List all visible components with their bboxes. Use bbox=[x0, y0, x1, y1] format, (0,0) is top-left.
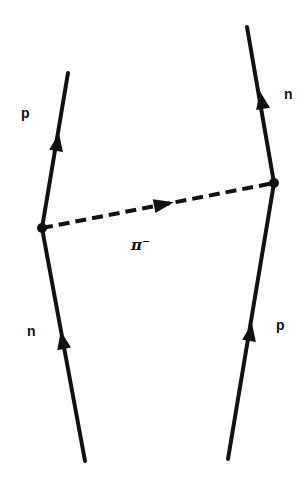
right-incoming-proton-line bbox=[228, 183, 274, 459]
arrow-right-icon bbox=[153, 195, 175, 213]
left-vertex bbox=[37, 223, 47, 233]
label-right-incoming-p: p bbox=[276, 318, 285, 332]
label-left-outgoing-p: p bbox=[21, 106, 30, 120]
label-right-outgoing-n: n bbox=[284, 87, 293, 101]
right-vertex bbox=[269, 178, 279, 188]
label-pion-exchange: π⁻ bbox=[131, 238, 150, 253]
label-left-incoming-n: n bbox=[27, 324, 36, 338]
arrow-up-icon bbox=[253, 90, 270, 110]
feynman-diagram bbox=[0, 0, 307, 492]
